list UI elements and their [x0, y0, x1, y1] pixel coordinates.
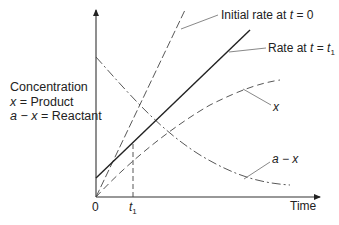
reactant-curve: [96, 57, 290, 185]
y-axis-label-line3: a − x = Reactant: [10, 109, 102, 124]
reactant-curve-label: a − x: [272, 152, 299, 166]
time-axis-label: Time: [290, 199, 317, 213]
initial-rate-leader: [181, 15, 218, 29]
reactant-leader: [244, 162, 270, 179]
initial-rate-label: Initial rate at t = 0: [221, 8, 314, 22]
rate-t1-label: Rate at t = t1: [268, 41, 335, 57]
initial-rate-line: [96, 10, 185, 197]
rate-t1-leader: [229, 48, 266, 52]
product-curve-label: x: [272, 100, 280, 114]
y-axis-label: Concentration x = Product a − x = Reacta…: [10, 80, 102, 124]
y-axis-label-line2: x = Product: [10, 95, 102, 110]
product-curve: [96, 80, 280, 197]
y-axis-label-line1: Concentration: [10, 80, 102, 95]
rate-t1-line: [96, 30, 250, 178]
product-leader: [243, 89, 271, 105]
t1-label: t1: [129, 200, 137, 216]
origin-label: 0: [92, 200, 99, 214]
